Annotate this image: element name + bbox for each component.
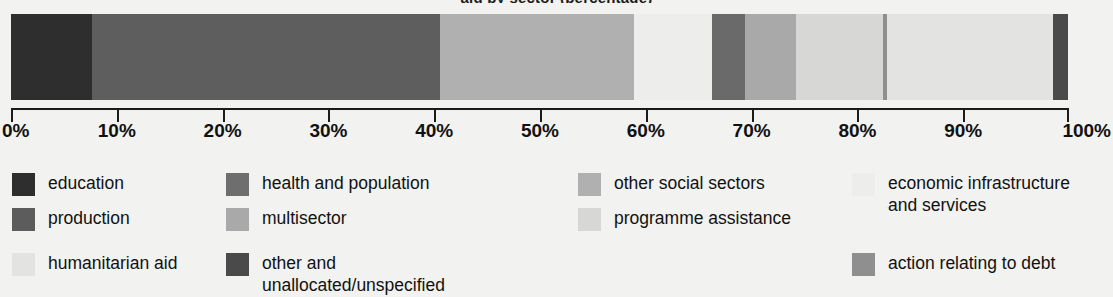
axis-tick-label-70pct: 70% — [733, 120, 771, 142]
legend-item-health-and-population[interactable]: health and population — [226, 172, 429, 196]
x-axis-tick-labels: 0%10%20%30%40%50%60%70%80%90%100% — [0, 120, 1113, 146]
legend-swatch-icon — [852, 253, 875, 276]
legend-swatch-icon — [12, 253, 35, 276]
legend-item-other-social-sectors[interactable]: other social sectors — [578, 172, 765, 196]
legend-item-label: economic infrastructure and services — [888, 172, 1070, 216]
legend-item-label: humanitarian aid — [48, 252, 177, 274]
chart-title: aid by sector (percentage) — [0, 0, 1113, 3]
axis-tick-label-30pct: 30% — [309, 120, 347, 142]
bar-segment-economic-infrastructure-and-services[interactable] — [634, 14, 712, 100]
legend-item-label: programme assistance — [614, 207, 791, 229]
stacked-bar — [11, 14, 1068, 100]
x-axis — [11, 108, 1069, 120]
legend-item-label: other social sectors — [614, 172, 765, 194]
legend-item-multisector[interactable]: multisector — [226, 207, 347, 231]
bar-segment-production[interactable] — [712, 14, 745, 100]
axis-tick-label-10pct: 10% — [98, 120, 136, 142]
legend-swatch-icon — [12, 208, 35, 231]
legend-item-label: production — [48, 207, 130, 229]
legend-item-action-relating-to-debt[interactable]: action relating to debt — [852, 252, 1055, 276]
axis-tick-label-20pct: 20% — [204, 120, 242, 142]
axis-tick-label-40pct: 40% — [415, 120, 453, 142]
legend-item-label: health and population — [262, 172, 429, 194]
axis-tick-label-50pct: 50% — [521, 120, 559, 142]
chart-page: aid by sector (percentage) 0%10%20%30%40… — [0, 0, 1113, 297]
axis-tick-label-100pct: 100% — [1062, 120, 1111, 142]
legend-item-humanitarian-aid[interactable]: humanitarian aid — [12, 252, 177, 276]
legend-swatch-icon — [578, 208, 601, 231]
stacked-bar-chart — [11, 14, 1068, 100]
legend-item-production[interactable]: production — [12, 207, 130, 231]
legend-swatch-icon — [226, 173, 249, 196]
legend-swatch-icon — [578, 173, 601, 196]
bar-segment-other-and-unallocated-unspecified[interactable] — [1053, 14, 1068, 100]
bar-segment-health-and-population[interactable] — [92, 14, 440, 100]
legend-swatch-icon — [226, 208, 249, 231]
bar-segment-education[interactable] — [11, 14, 92, 100]
legend-item-education[interactable]: education — [12, 172, 124, 196]
chart-legend: educationproductionhumanitarian aidhealt… — [0, 164, 1113, 297]
legend-item-label: education — [48, 172, 124, 194]
legend-item-label: multisector — [262, 207, 347, 229]
bar-segment-programme-assistance[interactable] — [796, 14, 883, 100]
axis-tick-label-60pct: 60% — [627, 120, 665, 142]
legend-swatch-icon — [226, 253, 249, 276]
legend-item-label: action relating to debt — [888, 252, 1055, 274]
legend-item-other-and-unallocated-unspecified[interactable]: other and unallocated/unspecified — [226, 252, 506, 296]
bar-segment-humanitarian-aid[interactable] — [887, 14, 1053, 100]
bar-segment-other-social-sectors[interactable] — [440, 14, 633, 100]
axis-tick-label-80pct: 80% — [838, 120, 876, 142]
axis-tick-label-90pct: 90% — [944, 120, 982, 142]
bar-segment-multisector[interactable] — [745, 14, 797, 100]
axis-tick-label-0pct: 0% — [2, 120, 29, 142]
legend-swatch-icon — [852, 173, 875, 196]
legend-item-programme-assistance[interactable]: programme assistance — [578, 207, 791, 231]
legend-swatch-icon — [12, 173, 35, 196]
legend-item-economic-infrastructure-and-services[interactable]: economic infrastructure and services — [852, 172, 1070, 216]
legend-item-label: other and unallocated/unspecified — [262, 252, 506, 296]
